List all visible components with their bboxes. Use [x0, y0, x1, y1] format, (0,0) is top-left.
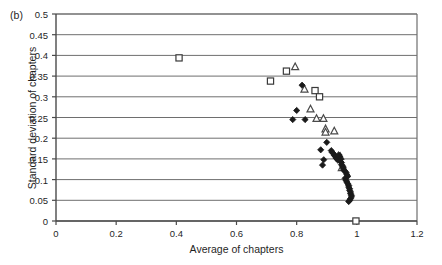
y-tick-label: 0.1: [8, 174, 48, 185]
marker-diamond-filled: [318, 147, 324, 153]
marker-triangle-open: [307, 105, 314, 112]
x-tick-label: 0.6: [230, 228, 243, 239]
gridlines: [56, 14, 417, 221]
series-open-square: [176, 55, 359, 224]
y-tick-label: 0.35: [8, 71, 48, 82]
y-tick-label: 0.45: [8, 29, 48, 40]
marker-diamond-filled: [324, 139, 330, 145]
x-tick-label: 0: [53, 228, 58, 239]
marker-square-open: [316, 94, 322, 100]
marker-diamond-filled: [321, 157, 327, 163]
x-tick-label: 0.4: [170, 228, 183, 239]
tick-marks: [52, 14, 417, 225]
marker-square-open: [312, 87, 318, 93]
x-axis-title: Average of chapters: [56, 243, 417, 255]
y-tick-label: 0.25: [8, 112, 48, 123]
y-tick-label: 0.5: [8, 9, 48, 20]
marker-diamond-filled: [294, 107, 300, 113]
x-tick-label: 0.2: [110, 228, 123, 239]
marker-triangle-open: [331, 127, 338, 134]
y-tick-label: 0.3: [8, 91, 48, 102]
x-tick-label: 0.8: [290, 228, 303, 239]
chart-figure: (b) Standard deviation of chapters Avera…: [0, 0, 442, 265]
scatter-plot-canvas: [0, 0, 442, 265]
marker-square-open: [267, 78, 273, 84]
x-tick-label: 1.2: [410, 228, 423, 239]
marker-diamond-filled: [319, 162, 325, 168]
y-tick-label: 0.15: [8, 153, 48, 164]
marker-triangle-open: [320, 115, 327, 122]
data-points: [176, 55, 359, 224]
y-tick-label: 0: [8, 216, 48, 227]
x-tick-label: 1: [354, 228, 359, 239]
y-tick-label: 0.2: [8, 133, 48, 144]
marker-square-open: [283, 68, 289, 74]
marker-square-open: [176, 55, 182, 61]
marker-triangle-open: [292, 63, 299, 70]
marker-triangle-open: [313, 115, 320, 122]
y-tick-label: 0.4: [8, 50, 48, 61]
marker-square-open: [353, 218, 359, 224]
y-tick-label: 0.05: [8, 195, 48, 206]
